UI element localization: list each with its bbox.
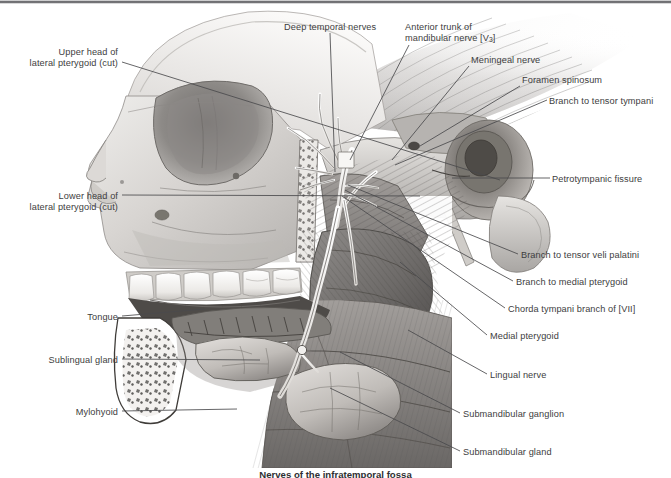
label-mylohyoid: Mylohyoid xyxy=(33,407,118,418)
label-text-line2: lateral pterygoid (cut) xyxy=(30,58,118,68)
label-text-line2: mandibular nerve [V3] xyxy=(405,33,496,43)
label-upper-head-lateral-pterygoid: Upper head oflateral pterygoid (cut) xyxy=(14,47,118,70)
label-sublingual-gland: Sublingual gland xyxy=(20,355,118,366)
label-branch-to-medial-pterygoid: Branch to medial pterygoid xyxy=(516,277,671,288)
label-text-line1: Anterior trunk of xyxy=(405,22,472,32)
label-submandibular-ganglion: Submandibular ganglion xyxy=(463,409,597,420)
label-text-line1: Branch to tensor veli palatini xyxy=(521,250,639,260)
label-chorda-tympani-branch-of-vii: Chorda tympani branch of [VII] xyxy=(508,304,671,315)
label-text-line1: Mylohyoid xyxy=(76,407,118,417)
label-text-line1: Upper head of xyxy=(59,47,118,57)
label-text-line1: Submandibular gland xyxy=(463,447,552,457)
label-anterior-trunk-mandibular-nerve: Anterior trunk ofmandibular nerve [V3] xyxy=(405,22,530,46)
label-tongue: Tongue xyxy=(40,312,118,323)
label-text-line1: Sublingual gland xyxy=(49,355,118,365)
label-branch-to-tensor-veli-palatini: Branch to tensor veli palatini xyxy=(521,250,671,261)
label-lower-head-lateral-pterygoid: Lower head oflateral pterygoid (cut) xyxy=(14,191,118,214)
label-text-line1: Chorda tympani branch of [VII] xyxy=(508,304,635,314)
label-medial-pterygoid: Medial pterygoid xyxy=(490,331,600,342)
label-text-line1: Tongue xyxy=(87,312,118,322)
label-text-line1: Branch to medial pterygoid xyxy=(516,277,628,287)
label-text-line1: Submandibular ganglion xyxy=(463,409,564,419)
label-text-line2: lateral pterygoid (cut) xyxy=(30,202,118,212)
label-text-line1: Foramen spinosum xyxy=(522,75,602,85)
label-text-line1: Medial pterygoid xyxy=(490,331,559,341)
submandibular-gland xyxy=(286,364,401,441)
label-petrotympanic-fissure: Petrotympanic fissure xyxy=(552,174,671,185)
label-foramen-spinosum: Foramen spinosum xyxy=(522,75,626,86)
label-text-line1: Petrotympanic fissure xyxy=(552,174,642,184)
label-deep-temporal-nerves: Deep temporal nerves xyxy=(284,22,402,33)
label-text-line1: Lingual nerve xyxy=(490,370,546,380)
label-text-line1: Deep temporal nerves xyxy=(284,22,376,32)
label-submandibular-gland: Submandibular gland xyxy=(463,447,585,458)
label-text-line1: Lower head of xyxy=(59,191,118,201)
figure-caption: Nerves of the infratemporal fossa xyxy=(0,469,671,478)
label-text-line1: Meningeal nerve xyxy=(471,55,540,65)
sublingual-gland xyxy=(195,337,300,381)
label-text-line1: Branch to tensor tympani xyxy=(549,96,653,106)
label-lingual-nerve: Lingual nerve xyxy=(490,370,590,381)
label-meningeal-nerve: Meningeal nerve xyxy=(471,55,567,66)
label-branch-to-tensor-tympani: Branch to tensor tympani xyxy=(549,96,671,107)
anatomy-figure: Upper head oflateral pterygoid (cut)Lowe… xyxy=(0,0,671,478)
upper-teeth xyxy=(126,268,302,301)
submandibular-ganglion-marker xyxy=(297,345,306,354)
